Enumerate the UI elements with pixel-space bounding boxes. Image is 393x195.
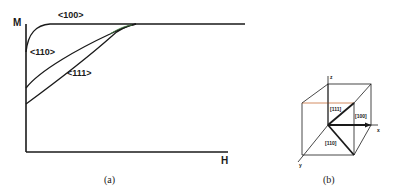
y-axis-3d — [298, 125, 328, 162]
curve-100 — [26, 24, 245, 52]
panel-b-cube — [298, 76, 378, 162]
axis-y-label: y — [299, 162, 302, 168]
label-110: <110> — [30, 47, 55, 57]
label-direction-100: [100] — [355, 113, 367, 119]
label-direction-111: [111] — [330, 106, 341, 112]
panel-a-chart: M H <100> <110> <111> (a) — [13, 10, 245, 186]
curve-111 — [26, 24, 136, 104]
caption-a: (a) — [104, 174, 115, 186]
x-axis-label: H — [221, 155, 228, 166]
axis-z-label: z — [330, 74, 333, 80]
label-direction-110: [110] — [325, 140, 337, 146]
label-100: <100> — [58, 10, 84, 20]
axis-x-label: x — [377, 127, 380, 133]
y-axis-label: M — [13, 17, 21, 28]
label-111: <111> — [67, 68, 92, 78]
figure: M H <100> <110> <111> (a) z — [0, 0, 393, 195]
caption-b: (b) — [323, 174, 335, 186]
